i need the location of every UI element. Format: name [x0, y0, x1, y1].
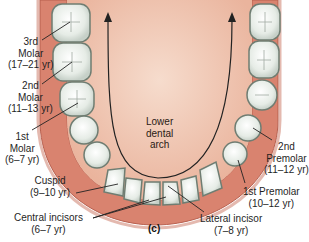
label-line: dental [146, 128, 173, 140]
label-1st-premolar: 1st Premolar (10–12 yr) [243, 186, 300, 209]
label-line: (11–13 yr) [8, 103, 53, 115]
label-line: Molar [5, 143, 39, 155]
label-line: (10–12 yr) [243, 198, 300, 210]
label-line: Cuspid [30, 175, 70, 187]
label-2nd-molar: 2nd Molar (11–13 yr) [8, 80, 53, 115]
label-line: 2nd [264, 141, 309, 153]
label-line: (17–21 yr) [8, 59, 54, 71]
label-line: (6–7 yr) [14, 224, 83, 236]
panel-label: (c) [148, 223, 160, 234]
label-lateral-incisor: Lateral incisor (7–8 yr) [200, 213, 262, 236]
label-2nd-premolar: 2nd Premolar (11–12 yr) [264, 141, 309, 176]
label-line: arch [146, 139, 173, 151]
label-line: Molar [8, 48, 54, 60]
label-line: 3rd [8, 36, 54, 48]
label-cuspid: Cuspid (9–10 yr) [30, 175, 70, 198]
lower-dental-arch-label: Lower dental arch [146, 116, 173, 151]
label-line: (7–8 yr) [200, 225, 262, 237]
label-line: 2nd [8, 80, 53, 92]
dental-arch-diagram: 3rd Molar (17–21 yr) 2nd Molar (11–13 yr… [0, 0, 309, 242]
label-line: (11–12 yr) [264, 164, 309, 176]
label-line: Central incisors [14, 212, 83, 224]
label-3rd-molar: 3rd Molar (17–21 yr) [8, 36, 54, 71]
label-1st-molar: 1st Molar (6–7 yr) [5, 131, 39, 166]
label-line: Lateral incisor [200, 213, 262, 225]
label-line: 1st Premolar [243, 186, 300, 198]
label-line: 1st [5, 131, 39, 143]
label-line: Lower [146, 116, 173, 128]
label-line: (9–10 yr) [30, 187, 70, 199]
label-line: Molar [8, 92, 53, 104]
label-line: (6–7 yr) [5, 154, 39, 166]
label-line: Premolar [264, 153, 309, 165]
label-central-incisors: Central incisors (6–7 yr) [14, 212, 83, 235]
